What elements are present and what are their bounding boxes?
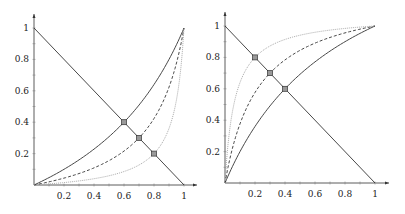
x-tick-label: 0.8 xyxy=(338,189,353,199)
series-diagonal xyxy=(225,26,375,183)
x-tick-label: 0.8 xyxy=(147,191,162,201)
x-tick-label: 1 xyxy=(372,189,378,199)
x-tick-label: 0.2 xyxy=(248,189,262,199)
x-tick-label: 0.2 xyxy=(57,191,71,201)
x-arrow-icon xyxy=(385,182,389,185)
x-tick-label: 0.6 xyxy=(117,191,132,201)
y-tick-label: 0.2 xyxy=(15,149,29,159)
y-arrow-icon xyxy=(33,14,36,18)
chart-2: 0.20.40.60.810.20.40.60.81 xyxy=(206,12,389,199)
intersection-marker xyxy=(137,135,142,140)
intersection-marker xyxy=(283,86,288,91)
x-tick-label: 0.4 xyxy=(87,191,102,201)
y-tick-label: 1 xyxy=(214,21,220,31)
intersection-marker xyxy=(152,151,157,156)
intersection-marker xyxy=(268,71,273,76)
chart-canvas: 0.20.40.60.810.20.40.60.810.20.40.60.810… xyxy=(0,0,405,214)
y-tick-label: 0.8 xyxy=(15,54,30,64)
y-tick-label: 0.4 xyxy=(206,115,221,125)
intersection-marker xyxy=(253,55,258,60)
chart-1: 0.20.40.60.810.20.40.60.81 xyxy=(15,14,197,201)
x-arrow-icon xyxy=(193,184,197,187)
x-tick-label: 0.6 xyxy=(308,189,323,199)
y-tick-label: 0.6 xyxy=(15,86,30,96)
y-arrow-icon xyxy=(224,12,227,16)
series-diagonal xyxy=(34,28,184,185)
y-tick-label: 0.4 xyxy=(15,117,30,127)
y-tick-label: 0.2 xyxy=(206,147,220,157)
y-tick-label: 0.8 xyxy=(206,52,221,62)
y-tick-label: 0.6 xyxy=(206,84,221,94)
x-tick-label: 1 xyxy=(181,191,187,201)
intersection-marker xyxy=(122,120,127,125)
y-tick-label: 1 xyxy=(23,23,29,33)
x-tick-label: 0.4 xyxy=(278,189,293,199)
